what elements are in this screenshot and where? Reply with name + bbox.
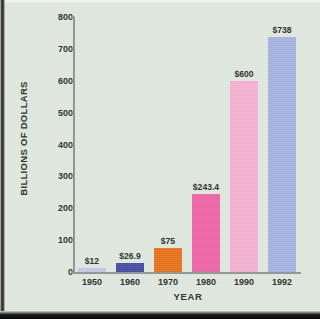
bar-rect[interactable]	[116, 263, 143, 272]
bar-value-label: $26.9	[119, 251, 141, 261]
y-axis-tick-label: 400	[5, 140, 80, 150]
page-edge-top	[0, 0, 320, 3]
bar-value-label: $600	[234, 69, 253, 79]
x-axis-title: YEAR	[73, 291, 303, 302]
bar-rect[interactable]	[230, 81, 257, 272]
bar-item[interactable]: $738	[268, 17, 295, 272]
bar-rect[interactable]	[268, 37, 295, 272]
y-axis-tick-label: 0	[5, 267, 80, 277]
y-axis-tick-label: 700	[5, 44, 80, 54]
y-axis-tick-label: 300	[5, 171, 80, 181]
chart-plate: BILLIONS OF DOLLARS YEAR 010020030040050…	[5, 3, 320, 311]
x-axis-tick-label: 1992	[263, 277, 301, 287]
bar-item[interactable]: $243.4	[192, 17, 219, 272]
y-axis-tick-label: 200	[5, 203, 80, 213]
bar-value-label: $12	[85, 256, 99, 266]
bar-value-label: $75	[161, 236, 175, 246]
bar-item[interactable]: $12	[78, 17, 105, 272]
bar-rect[interactable]	[192, 194, 219, 272]
bar-item[interactable]: $600	[230, 17, 257, 272]
y-axis-tick-label: 500	[5, 108, 80, 118]
bar-chart: BILLIONS OF DOLLARS YEAR 010020030040050…	[5, 3, 320, 311]
y-axis-tick-label: 600	[5, 76, 80, 86]
bar-value-label: $243.4	[193, 182, 219, 192]
x-axis-tick-label: 1980	[187, 277, 225, 287]
x-axis-tick-label: 1950	[73, 277, 111, 287]
bar-item[interactable]: $75	[154, 17, 181, 272]
x-axis-line	[73, 272, 301, 274]
bar-rect[interactable]	[154, 248, 181, 272]
y-axis-tick-label: 800	[5, 12, 80, 22]
x-axis-tick-label: 1970	[149, 277, 187, 287]
bar-rect[interactable]	[78, 268, 105, 272]
chart-screenshot: BILLIONS OF DOLLARS YEAR 010020030040050…	[0, 0, 320, 319]
page-edge-bottom	[0, 311, 320, 319]
bar-item[interactable]: $26.9	[116, 17, 143, 272]
x-axis-tick-label: 1990	[225, 277, 263, 287]
bar-series: $12$26.9$75$243.4$600$738	[73, 17, 301, 272]
bar-value-label: $738	[272, 25, 291, 35]
page-edge-left	[0, 0, 5, 319]
x-axis-tick-label: 1960	[111, 277, 149, 287]
y-axis-tick-label: 100	[5, 235, 80, 245]
